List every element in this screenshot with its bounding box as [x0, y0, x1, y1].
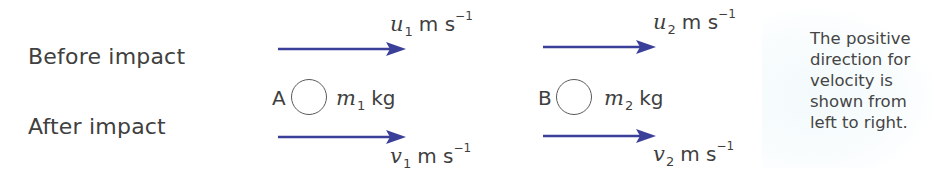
particle-a-mass-label: m1kg — [336, 86, 395, 110]
positive-direction-note: The positive direction for velocity is s… — [810, 28, 934, 133]
note-line: The positive — [810, 28, 934, 49]
velocity-u2-label: u2m s−1 — [653, 10, 736, 34]
note-line: direction for — [810, 49, 934, 70]
velocity-u1-label: u1m s−1 — [390, 12, 473, 36]
arrow-right-icon-v1 — [278, 130, 406, 144]
particle-a-circle — [291, 79, 327, 115]
note-line: left to right. — [810, 112, 934, 133]
before-impact-label: Before impact — [28, 44, 185, 69]
arrow-right-icon-v2 — [543, 129, 656, 143]
arrow-right-icon-u2 — [543, 40, 656, 54]
arrow-right-icon-u1 — [278, 42, 406, 56]
particle-b-mass-label: m2kg — [604, 86, 663, 110]
note-line: shown from — [810, 91, 934, 112]
velocity-v2-label: v2m s−1 — [653, 142, 734, 166]
particle-b-letter: B — [538, 86, 552, 110]
particle-b-circle — [556, 79, 592, 115]
particle-a-letter: A — [272, 86, 286, 110]
note-line: velocity is — [810, 70, 934, 91]
after-impact-label: After impact — [28, 114, 166, 139]
velocity-v1-label: v1m s−1 — [390, 144, 471, 168]
